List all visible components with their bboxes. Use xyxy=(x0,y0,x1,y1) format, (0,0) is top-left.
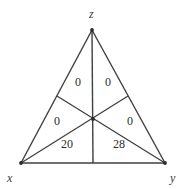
bottom-right-marker xyxy=(163,161,167,165)
edge-left xyxy=(21,30,92,163)
triangle-diagram-svg xyxy=(0,0,184,189)
region-bottom-right-value: 28 xyxy=(113,138,125,150)
region-mid-right-value: 0 xyxy=(127,115,133,127)
vertex-label-z: z xyxy=(89,8,94,20)
bottom-left-marker xyxy=(19,161,23,165)
cevian-lines xyxy=(21,30,165,163)
region-mid-left-value: 0 xyxy=(54,115,60,127)
cevian-vertical-apex-to-base xyxy=(92,30,93,163)
triangle-diagram: z x y 0 0 0 0 20 28 xyxy=(0,0,184,189)
region-top-left-value: 0 xyxy=(75,76,81,88)
region-bottom-left-value: 20 xyxy=(61,138,73,150)
apex-marker xyxy=(90,28,94,32)
vertex-label-x: x xyxy=(7,172,12,184)
region-top-right-value: 0 xyxy=(105,76,111,88)
centroid-marker xyxy=(91,117,95,121)
edge-right xyxy=(92,30,165,163)
vertex-label-y: y xyxy=(170,172,175,184)
